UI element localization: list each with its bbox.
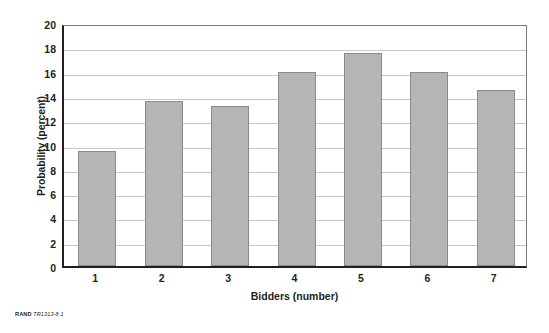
x-axis-tick-labels: 1234567 — [62, 272, 527, 288]
y-tick-label: 2 — [0, 238, 56, 250]
x-tick-label: 1 — [92, 272, 98, 284]
x-tick-label: 2 — [159, 272, 165, 284]
bar — [278, 72, 316, 266]
x-tick-label: 3 — [225, 272, 231, 284]
bar — [410, 72, 448, 266]
y-tick-label: 18 — [0, 43, 56, 55]
y-tick-label: 0 — [0, 262, 56, 274]
x-tick-label: 4 — [292, 272, 298, 284]
y-tick-label: 10 — [0, 141, 56, 153]
y-axis-tick-labels: 02468101214161820 — [0, 25, 56, 268]
bar — [145, 101, 183, 266]
rand-logo-text: RAND — [15, 311, 32, 317]
bar — [344, 53, 382, 266]
source-caption: RAND TR1313-8.1 — [15, 311, 64, 317]
bar — [211, 106, 249, 266]
x-tick-label: 6 — [424, 272, 430, 284]
figure-container: Probability (percent) 02468101214161820 … — [0, 0, 549, 333]
y-tick-label: 6 — [0, 189, 56, 201]
bar — [477, 90, 515, 266]
y-tick-label: 20 — [0, 19, 56, 31]
figure-id-text: TR1313-8.1 — [33, 311, 64, 317]
x-tick-label: 7 — [491, 272, 497, 284]
x-axis-title: Bidders (number) — [62, 290, 527, 302]
bar — [78, 151, 116, 266]
bar-series — [64, 26, 526, 266]
y-tick-label: 4 — [0, 213, 56, 225]
x-tick-label: 5 — [358, 272, 364, 284]
y-tick-label: 8 — [0, 165, 56, 177]
plot-area — [62, 25, 527, 268]
y-tick-label: 12 — [0, 116, 56, 128]
y-tick-label: 14 — [0, 92, 56, 104]
y-tick-label: 16 — [0, 68, 56, 80]
